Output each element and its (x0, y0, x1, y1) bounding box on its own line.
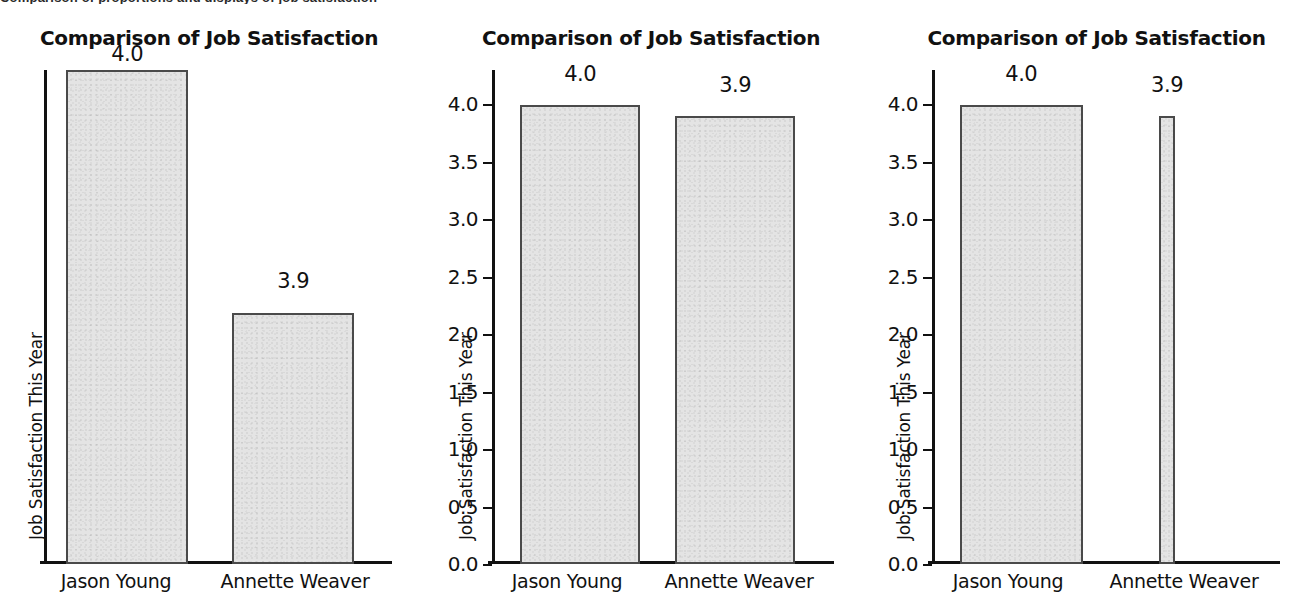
x-tick-label-annette-weaver-3: Annette Weaver (1098, 570, 1270, 592)
y-tick-label-3-8: 4.0 (888, 92, 918, 116)
bar-group-1 (44, 70, 389, 564)
plot-area-2: 4.0 3.5 3.0 2.5 2.0 1.5 1.0 0.5 0.0 4.0 … (492, 70, 822, 564)
x-tick-label-annette-weaver-2: Annette Weaver (654, 570, 824, 592)
bar-value-annette-weaver-3: 3.9 (1126, 73, 1208, 97)
y-tick-label-3-4: 2.0 (888, 322, 918, 346)
bar-group-3 (932, 70, 1264, 564)
y-tick-label-2-5: 2.5 (448, 264, 478, 288)
x-tick-label-jason-young-3: Jason Young (932, 570, 1084, 592)
y-tick-label-2-0: 0.0 (448, 552, 478, 576)
y-tick-label-2-2: 1.0 (448, 437, 478, 461)
bar-value-annette-weaver-2: 3.9 (675, 73, 795, 97)
bar-annette-weaver-1[interactable] (232, 313, 354, 564)
plot-area-1: 4.0 3.9 (44, 70, 389, 564)
y-tick-label-3-3: 1.5 (888, 379, 918, 403)
y-tick-label-2-3: 1.5 (448, 379, 478, 403)
plot-area-3: 4.0 3.5 3.0 2.5 2.0 1.5 1.0 0.5 0.0 4.0 … (932, 70, 1264, 564)
y-tick-label-3-2: 1.0 (888, 437, 918, 461)
bar-jason-young-2[interactable] (520, 105, 640, 564)
bar-value-jason-young-1: 4.0 (66, 42, 188, 66)
y-tick-label-2-7: 3.5 (448, 149, 478, 173)
bar-value-annette-weaver-1: 3.9 (232, 269, 354, 293)
bar-value-jason-young-3: 4.0 (960, 62, 1083, 86)
x-tick-label-jason-young-1: Jason Young (44, 570, 188, 592)
chart-panel-1: Comparison of Job Satisfaction Job Satis… (0, 0, 430, 612)
bar-value-jason-young-2: 4.0 (520, 62, 640, 86)
chart-panel-3: Comparison of Job Satisfaction Job Satis… (860, 0, 1305, 612)
bar-jason-young-1[interactable] (66, 70, 188, 564)
chart-panel-2: Comparison of Job Satisfaction Job Satis… (430, 0, 860, 612)
x-tick-label-annette-weaver-1: Annette Weaver (210, 570, 380, 592)
chart-title-3: Comparison of Job Satisfaction (874, 26, 1305, 50)
x-tick-label-jason-young-2: Jason Young (492, 570, 642, 592)
chart-title-2: Comparison of Job Satisfaction (436, 26, 866, 50)
chart-title-1: Comparison of Job Satisfaction (0, 26, 424, 50)
y-tick-label-3-6: 3.0 (888, 207, 918, 231)
y-tick-label-3-5: 2.5 (888, 264, 918, 288)
bar-annette-weaver-2[interactable] (675, 116, 795, 564)
y-axis-label-1: Job Satisfaction This Year (26, 332, 46, 540)
y-tick-label-3-1: 0.5 (888, 494, 918, 518)
y-tick-label-2-1: 0.5 (448, 494, 478, 518)
y-tick-label-2-4: 2.0 (448, 322, 478, 346)
y-tick-label-2-8: 4.0 (448, 92, 478, 116)
bar-jason-young-3[interactable] (960, 105, 1083, 564)
y-tick-label-3-0: 0.0 (888, 552, 918, 576)
chart-panel-group: Comparison of Job Satisfaction Job Satis… (0, 0, 1305, 612)
y-tick-label-3-7: 3.5 (888, 149, 918, 173)
bar-group-2 (492, 70, 822, 564)
y-tick-label-2-6: 3.0 (448, 207, 478, 231)
bar-annette-weaver-3[interactable] (1159, 116, 1174, 564)
